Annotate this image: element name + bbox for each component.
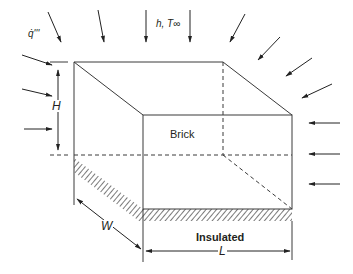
arrow-diag-1 [230,14,245,42]
dimension-lines [58,70,290,251]
insulated-hatching [74,158,292,221]
insulated-label: Insulated [196,232,244,243]
arrow-left-2 [22,89,52,96]
length-label: L [218,245,227,257]
heat-generation-label: q̇''' [28,29,39,39]
arrow-top-2 [98,10,104,42]
brick-label: Brick [170,129,194,140]
arrow-diag-3 [286,58,312,76]
width-label: W [100,220,113,232]
convection-label: h, T∞ [156,19,180,29]
arrow-top-1 [48,12,61,42]
brick-box [50,62,292,262]
arrow-diag-2 [258,37,280,60]
height-label: H [51,100,62,112]
arrow-left-1 [22,55,52,65]
arrow-diag-4 [302,84,332,98]
